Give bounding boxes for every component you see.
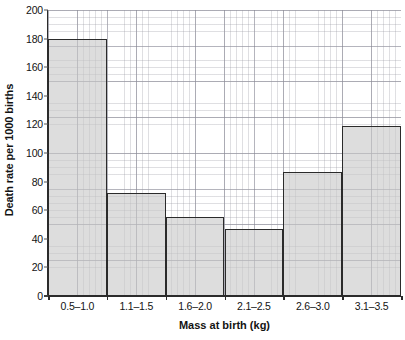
y-tick-mark — [44, 210, 48, 211]
x-tick-mark — [283, 296, 285, 300]
y-axis-tick-labels: 020406080100120140160180200 — [16, 10, 43, 296]
x-tick-mark — [401, 296, 403, 300]
y-tick-label: 40 — [16, 233, 43, 245]
y-tick-mark — [44, 153, 48, 154]
bar — [225, 229, 284, 296]
bar — [48, 39, 107, 296]
x-tick-label: 3.1–3.5 — [342, 300, 401, 312]
x-tick-label: 1.1–1.5 — [107, 300, 166, 312]
x-axis-title: Mass at birth (kg) — [48, 319, 401, 331]
x-tick-label: 2.6–3.0 — [283, 300, 342, 312]
y-tick-mark — [44, 238, 48, 239]
y-tick-label: 120 — [16, 118, 43, 130]
y-tick-label: 100 — [16, 147, 43, 159]
plot-area — [48, 10, 401, 296]
x-tick-mark — [48, 296, 50, 300]
x-axis-tick-labels: 0.5–1.01.1–1.51.6–2.02.1–2.52.6–3.03.1–3… — [48, 300, 401, 318]
bar — [342, 126, 401, 296]
y-tick-mark — [44, 124, 48, 125]
y-tick-label: 80 — [16, 176, 43, 188]
bars-layer — [48, 10, 401, 296]
y-axis-title-text: Death rate per 1000 births — [3, 84, 15, 217]
y-tick-label: 0 — [16, 290, 43, 302]
y-tick-mark — [44, 67, 48, 68]
y-tick-label: 60 — [16, 204, 43, 216]
x-tick-label: 2.1–2.5 — [225, 300, 284, 312]
x-tick-mark — [342, 296, 344, 300]
x-tick-label: 1.6–2.0 — [166, 300, 225, 312]
y-tick-label: 20 — [16, 261, 43, 273]
x-tick-mark — [225, 296, 227, 300]
y-tick-label: 200 — [16, 4, 43, 16]
y-tick-mark — [44, 95, 48, 96]
bar — [283, 172, 342, 296]
x-axis-line — [44, 295, 401, 297]
x-tick-mark — [166, 296, 168, 300]
y-tick-mark — [44, 10, 48, 11]
y-tick-mark — [44, 181, 48, 182]
bar — [107, 193, 166, 296]
x-tick-mark — [107, 296, 109, 300]
y-tick-mark — [44, 38, 48, 39]
y-tick-label: 160 — [16, 61, 43, 73]
y-tick-label: 180 — [16, 33, 43, 45]
bar — [166, 217, 225, 296]
y-tick-label: 140 — [16, 90, 43, 102]
x-tick-label: 0.5–1.0 — [48, 300, 107, 312]
histogram-chart: Death rate per 1000 births 0204060801001… — [0, 0, 405, 340]
y-tick-mark — [44, 267, 48, 268]
